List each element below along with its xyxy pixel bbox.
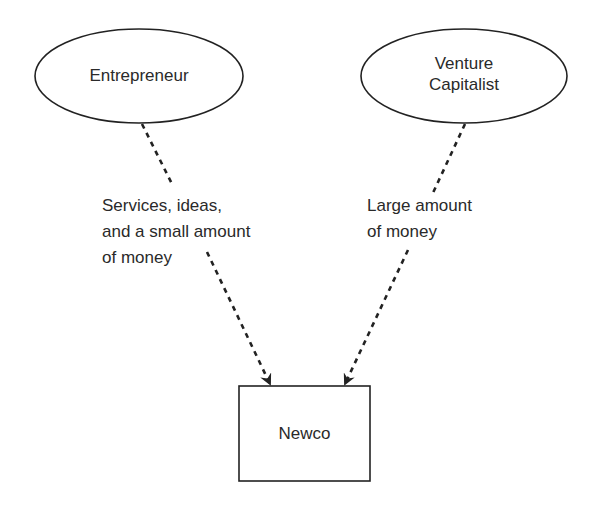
vc-edge-lower — [345, 250, 408, 384]
newco-label: Newco — [239, 423, 370, 444]
venture-capitalist-label-line-1: Venture — [361, 53, 567, 74]
entrepreneur-contribution-line-1: Services, ideas, — [102, 193, 250, 219]
entrepreneur-contribution-line-2: and a small amount — [102, 219, 250, 245]
vc-contribution-line-1: Large amount — [367, 193, 472, 219]
entrepreneur-edge-lower — [207, 252, 270, 384]
entrepreneur-edge-upper — [142, 124, 173, 186]
venture-capitalist-label-line-2: Capitalist — [361, 74, 567, 95]
entrepreneur-contribution-label: Services, ideas, and a small amount of m… — [102, 193, 250, 271]
newco-label-line: Newco — [239, 423, 370, 444]
entrepreneur-label-line: Entrepreneur — [35, 65, 243, 86]
vc-contribution-line-2: of money — [367, 219, 472, 245]
entrepreneur-label: Entrepreneur — [35, 65, 243, 86]
venture-capitalist-label: Venture Capitalist — [361, 53, 567, 95]
entrepreneur-contribution-line-3: of money — [102, 245, 250, 271]
vc-contribution-label: Large amount of money — [367, 193, 472, 245]
vc-edge-upper — [432, 124, 465, 195]
